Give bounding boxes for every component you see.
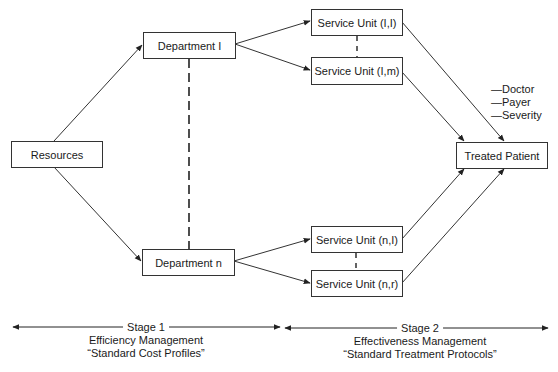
node-department-n: Department n [142, 249, 235, 276]
edge-department-n-service-unit-n-r [234, 261, 310, 283]
node-service-unit-1-1: Service Unit (I,I) [311, 9, 403, 36]
node-treated-patient-label: Treated Patient [465, 150, 540, 162]
node-service-unit-1-1-label: Service Unit (I,I) [318, 17, 397, 29]
edge-department-1-service-unit-1-m [235, 44, 310, 70]
stage-2-subtitle: “Standard Treatment Protocols” [343, 348, 496, 361]
edge-department-1-service-unit-1-1 [235, 21, 310, 44]
patient-factor-severity: —Severity [491, 109, 542, 122]
stage-1-label: Stage 1 [123, 321, 169, 333]
edge-service-unit-n-1-treated-patient [402, 169, 464, 239]
patient-factor-doctor: —Doctor [491, 83, 542, 96]
edge-resources-department-n [54, 167, 141, 261]
node-department-1: Department I [143, 32, 236, 59]
stage-1-subtitle: “Standard Cost Profiles” [87, 347, 204, 360]
patient-factors-list: —Doctor —Payer —Severity [491, 83, 542, 122]
node-treated-patient: Treated Patient [456, 142, 548, 169]
stage-2-title: Effectiveness Management [354, 335, 486, 348]
node-service-unit-n-r: Service Unit (n,r) [311, 270, 403, 297]
edge-resources-department-1 [54, 45, 142, 141]
node-service-unit-1-m-label: Service Unit (I,m) [315, 65, 400, 77]
node-department-n-label: Department n [155, 257, 222, 269]
node-resources: Resources [11, 141, 103, 168]
node-resources-label: Resources [31, 149, 84, 161]
edge-service-unit-1-1-treated-patient [402, 22, 504, 141]
connector-layer [0, 0, 558, 372]
node-service-unit-n-1-label: Service Unit (n,I) [316, 234, 398, 246]
edge-department-n-service-unit-n-1 [234, 239, 310, 261]
node-service-unit-n-r-label: Service Unit (n,r) [316, 278, 399, 290]
stage-1-title: Efficiency Management [89, 334, 203, 347]
node-service-unit-n-1: Service Unit (n,I) [311, 226, 403, 253]
node-department-1-label: Department I [158, 40, 222, 52]
edge-service-unit-n-r-treated-patient [402, 169, 504, 283]
diagram-canvas: Resources Department I Department n Serv… [0, 0, 558, 372]
patient-factor-payer: —Payer [491, 96, 542, 109]
stage-2-label: Stage 2 [397, 322, 443, 334]
edge-service-unit-1-m-treated-patient [402, 72, 464, 141]
node-service-unit-1-m: Service Unit (I,m) [311, 57, 403, 85]
